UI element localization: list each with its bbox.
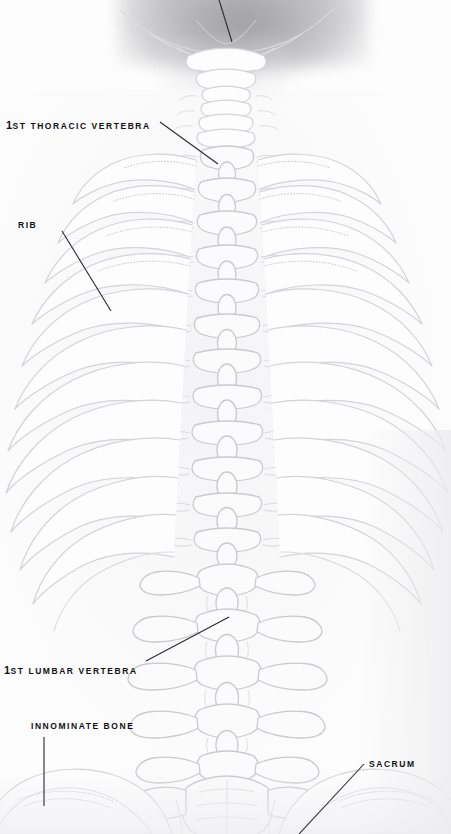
label-text: INNOMINATE BONE [31,721,134,731]
label-text: THORACIC VERTEBRA [30,121,150,131]
illustration-canvas: .b { fill:#fdfdfe; stroke:#d3d3d8; strok… [0,0,451,834]
label-text: LUMBAR VERTEBRA [28,666,137,676]
label-innominate-bone: INNOMINATE BONE [31,722,134,731]
label-rib: RIB [18,221,37,230]
label-text: RIB [18,220,37,230]
label-first-lumbar-vertebra: 1ST LUMBAR VERTEBRA [4,665,138,676]
label-first-thoracic-vertebra: 1ST THORACIC VERTEBRA [6,120,151,131]
right-edge-shading [361,430,451,834]
label-ordinal-suffix: ST [13,121,27,131]
label-sacrum: SACRUM [369,760,416,769]
label-ordinal-suffix: ST [11,666,25,676]
label-text: SACRUM [369,759,416,769]
